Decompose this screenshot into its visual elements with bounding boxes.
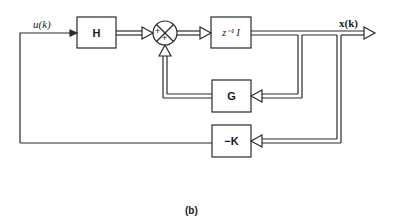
block-diagram — [0, 0, 394, 224]
input-signal-label: u(k) — [33, 19, 51, 30]
output-signal-label: x(k) — [339, 18, 358, 29]
sum-sign-left: + — [155, 27, 160, 36]
g-to-sum-arrow-icon — [159, 45, 171, 56]
figure-caption: (b) — [185, 206, 198, 216]
g-input-arrow-icon — [251, 90, 262, 102]
input-line — [20, 33, 70, 143]
input-arrow-icon — [70, 30, 77, 36]
sum-sign-bottom: + — [162, 34, 167, 43]
block-delay-label: z⁻¹ I — [211, 17, 251, 48]
output-arrow-icon — [364, 27, 375, 39]
block-k-label: −K — [212, 125, 251, 157]
block-h-label: H — [77, 17, 116, 48]
sum-to-delay-arrow-icon — [200, 27, 211, 39]
block-g-label: G — [212, 80, 251, 112]
h-to-sum-arrow-icon — [142, 27, 153, 39]
k-input-arrow-icon — [251, 135, 262, 147]
